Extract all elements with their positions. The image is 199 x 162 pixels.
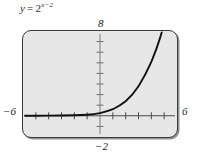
function-curve (25, 32, 162, 115)
y-max-label: 8 (98, 17, 104, 29)
plot-canvas (23, 31, 177, 137)
graph-viewport (22, 30, 178, 138)
equation-relation: = (25, 2, 35, 14)
x-min-label: −6 (3, 105, 16, 117)
x-max-label: 6 (182, 105, 188, 117)
equation-label: y=2x−2 (20, 2, 53, 14)
y-min-label: −2 (95, 140, 108, 152)
equation-exponent: x−2 (41, 1, 53, 9)
figure-container: y=2x−2 (0, 0, 199, 162)
